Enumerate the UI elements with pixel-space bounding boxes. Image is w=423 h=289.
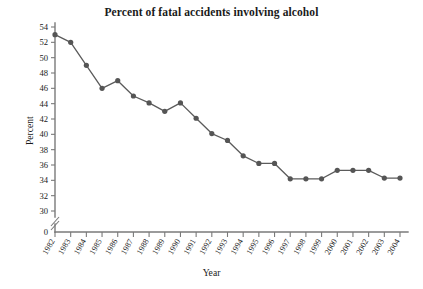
x-tick-label: 1996	[260, 238, 276, 257]
data-point	[303, 176, 308, 181]
data-point	[131, 93, 136, 98]
x-tick-label: 1991	[182, 238, 198, 257]
x-tick-label: 1983	[56, 238, 72, 257]
x-tick-label: 2001	[339, 238, 355, 257]
y-tick-label: 48	[39, 68, 48, 78]
x-tick-label: 1999	[307, 238, 323, 257]
x-tick-label: 1998	[292, 238, 308, 257]
y-tick-label: 52	[39, 37, 48, 47]
data-point	[241, 153, 246, 158]
x-tick-label: 2004	[386, 238, 402, 257]
y-tick-label: 40	[39, 129, 48, 139]
y-tick-label: 32	[39, 191, 48, 201]
x-tick-label: 1982	[41, 238, 57, 257]
y-origin-label: 0	[44, 227, 48, 237]
x-axis: 1982198319841985198619871988198919901991…	[41, 232, 408, 256]
chart-container: Percent of fatal accidents involving alc…	[0, 0, 423, 289]
chart-plot-area: 303234363840424446485052540 198219831984…	[0, 0, 423, 289]
x-tick-label: 1993	[213, 238, 229, 257]
data-point	[178, 100, 183, 105]
data-point	[99, 86, 104, 91]
x-tick-label: 2000	[323, 238, 339, 257]
series-path	[55, 35, 400, 179]
y-tick-label: 44	[39, 99, 48, 109]
data-point	[68, 40, 73, 45]
x-tick-label: 1994	[229, 238, 245, 257]
y-tick-label: 30	[39, 206, 48, 216]
x-tick-label: 1995	[245, 238, 261, 257]
data-point	[209, 131, 214, 136]
data-point	[194, 116, 199, 121]
data-point	[146, 100, 151, 105]
y-tick-label: 42	[39, 114, 48, 124]
x-tick-label: 1997	[276, 238, 292, 257]
y-axis: 303234363840424446485052540	[39, 22, 59, 237]
y-tick-label: 54	[39, 22, 48, 32]
data-point	[350, 168, 355, 173]
data-point	[256, 161, 261, 166]
data-point	[335, 168, 340, 173]
data-point	[288, 176, 293, 181]
data-series-alcohol	[52, 32, 402, 181]
x-tick-label: 1990	[166, 238, 182, 257]
x-tick-label: 1989	[151, 238, 167, 257]
data-point	[115, 78, 120, 83]
y-tick-label: 50	[39, 53, 48, 63]
x-tick-label: 1984	[72, 238, 88, 257]
x-tick-label: 2002	[354, 238, 370, 257]
data-point	[366, 168, 371, 173]
data-point	[225, 138, 230, 143]
y-tick-label: 34	[39, 175, 48, 185]
x-tick-label: 2003	[370, 238, 386, 257]
data-point	[52, 32, 57, 37]
data-point	[84, 63, 89, 68]
data-point	[162, 109, 167, 114]
y-tick-label: 38	[39, 145, 48, 155]
data-point	[272, 161, 277, 166]
x-tick-label: 1992	[198, 238, 214, 257]
x-tick-label: 1986	[103, 238, 119, 257]
data-point	[382, 175, 387, 180]
x-tick-label: 1988	[135, 238, 151, 257]
y-tick-label: 36	[39, 160, 48, 170]
x-tick-label: 1987	[119, 238, 135, 257]
x-tick-label: 1985	[88, 238, 104, 257]
data-point	[397, 175, 402, 180]
y-tick-label: 46	[39, 83, 48, 93]
data-point	[319, 176, 324, 181]
